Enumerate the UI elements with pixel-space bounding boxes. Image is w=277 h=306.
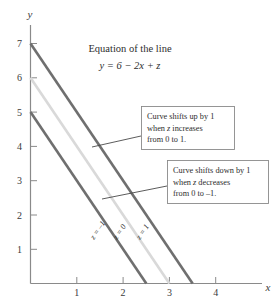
callout-up-line3: from 0 to 1. bbox=[147, 135, 186, 144]
curve-tag-z-1: z = 1 bbox=[134, 222, 151, 242]
callout-up-line2-b: increases bbox=[170, 124, 202, 133]
y-tick-label-1: 1 bbox=[17, 244, 22, 255]
x-tick-label-group: 1 2 3 4 bbox=[74, 287, 218, 298]
y-tick-label-6: 6 bbox=[17, 72, 22, 83]
callout-up-line2-a: when bbox=[147, 124, 167, 133]
y-tick-label-3: 3 bbox=[17, 175, 22, 186]
x-tick-label-1: 1 bbox=[74, 287, 79, 298]
callout-down-line2-a: when bbox=[173, 178, 193, 187]
x-tick-label-2: 2 bbox=[121, 287, 126, 298]
callout-shift-down: Curve shifts down by 1 when z decreases … bbox=[102, 161, 269, 204]
callout-up-line2: when z increases bbox=[147, 124, 203, 133]
curve-tag-group: z = –1 z = 0 z = 1 bbox=[88, 219, 151, 242]
y-tick-label-7: 7 bbox=[17, 38, 22, 49]
equation-body: y = 6 − 2x + z bbox=[99, 60, 161, 71]
y-tick-group bbox=[31, 44, 38, 250]
y-tick-label-2: 2 bbox=[17, 210, 22, 221]
curve-z-minus-1 bbox=[31, 112, 147, 283]
curve-tag-z-0: z = 0 bbox=[111, 222, 128, 242]
figure-container: 7 6 5 4 3 2 1 1 2 3 4 y x bbox=[0, 0, 277, 306]
y-tick-label-5: 5 bbox=[17, 107, 22, 118]
x-tick-label-3: 3 bbox=[167, 287, 172, 298]
x-axis-label: x bbox=[265, 281, 271, 293]
line-chart: 7 6 5 4 3 2 1 1 2 3 4 y x bbox=[0, 0, 277, 306]
equation-title: Equation of the line bbox=[88, 43, 171, 54]
callout-up-line1: Curve shifts up by 1 bbox=[147, 112, 214, 121]
callout-up-leader bbox=[92, 136, 141, 147]
callout-shift-up: Curve shifts up by 1 when z increases fr… bbox=[92, 107, 235, 150]
callout-down-line2: when z decreases bbox=[173, 178, 230, 187]
callout-down-line2-b: decreases bbox=[196, 178, 230, 187]
callout-down-line3: from 0 to –1. bbox=[173, 189, 216, 198]
curve-tag-z-minus-1: z = –1 bbox=[88, 219, 108, 242]
y-tick-label-group: 7 6 5 4 3 2 1 bbox=[17, 38, 22, 255]
equation-title-group: Equation of the line y = 6 − 2x + z bbox=[88, 43, 171, 71]
x-tick-label-4: 4 bbox=[213, 287, 218, 298]
y-tick-label-4: 4 bbox=[17, 141, 22, 152]
callout-down-line1: Curve shifts down by 1 bbox=[173, 166, 250, 175]
y-axis-label: y bbox=[27, 8, 33, 20]
